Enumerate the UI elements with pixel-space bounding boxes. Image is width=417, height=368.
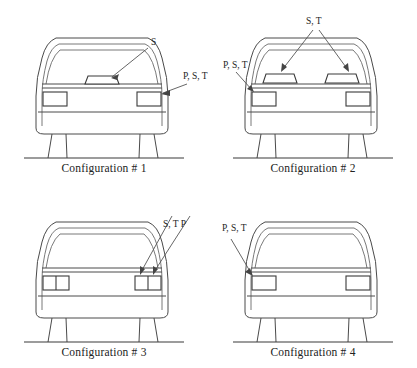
ledge-lamps-label: S, T — [306, 16, 322, 26]
split-lamp-label: S, T P — [163, 219, 186, 229]
car-body-rear-view — [245, 222, 377, 318]
left-tail-lamp — [252, 92, 276, 106]
car-body-rear-view — [36, 222, 168, 318]
right-tail-lamp — [137, 92, 161, 106]
left-tail-lamp — [43, 92, 67, 106]
left-ledge-lamp — [263, 74, 297, 83]
wheels-and-ground — [233, 318, 393, 342]
leader-to-left-tail-lamp — [231, 239, 253, 276]
panel-configuration-4: P, S, T Configuration # 4 — [209, 184, 417, 368]
leader-to-right-tail-lamp — [161, 84, 187, 96]
rear-combination-lamp-label: P, S, T — [222, 223, 247, 233]
panel-configuration-1: S P, S, T Configuration # 1 — [0, 0, 208, 184]
wheels-and-ground — [24, 318, 184, 342]
leader-to-center-lamp — [111, 48, 148, 80]
panel-caption: Configuration # 2 — [209, 162, 417, 174]
car-body-rear-view — [36, 38, 168, 134]
right-tail-lamp — [346, 92, 370, 106]
right-tail-lamp — [346, 276, 370, 290]
rear-combination-lamp-label: P, S, T — [183, 71, 208, 81]
left-split-tail-lamp — [43, 276, 69, 290]
panel-caption: Configuration # 3 — [0, 346, 208, 358]
wheels-and-ground — [24, 134, 184, 158]
panel-configuration-2: S, T P, S, T Configuration # 2 — [209, 0, 417, 184]
panel-caption: Configuration # 1 — [0, 162, 208, 174]
left-tail-lamp — [252, 276, 276, 290]
leader-to-right-ledge-lamp — [319, 30, 349, 72]
wheels-and-ground — [233, 134, 393, 158]
panel-caption: Configuration # 4 — [209, 346, 417, 358]
car-body-rear-view — [245, 38, 377, 134]
right-ledge-lamp — [325, 74, 359, 83]
leader-to-left-ledge-lamp — [281, 30, 313, 72]
rear-combination-lamp-label: P, S, T — [223, 60, 248, 70]
panel-configuration-3: S, T P Configuration # 3 — [0, 184, 208, 368]
center-high-mount-lamp-label: S — [151, 37, 156, 47]
right-split-tail-lamp — [135, 276, 161, 290]
lighting-configuration-figure: S P, S, T Configuration # 1 — [0, 0, 417, 368]
